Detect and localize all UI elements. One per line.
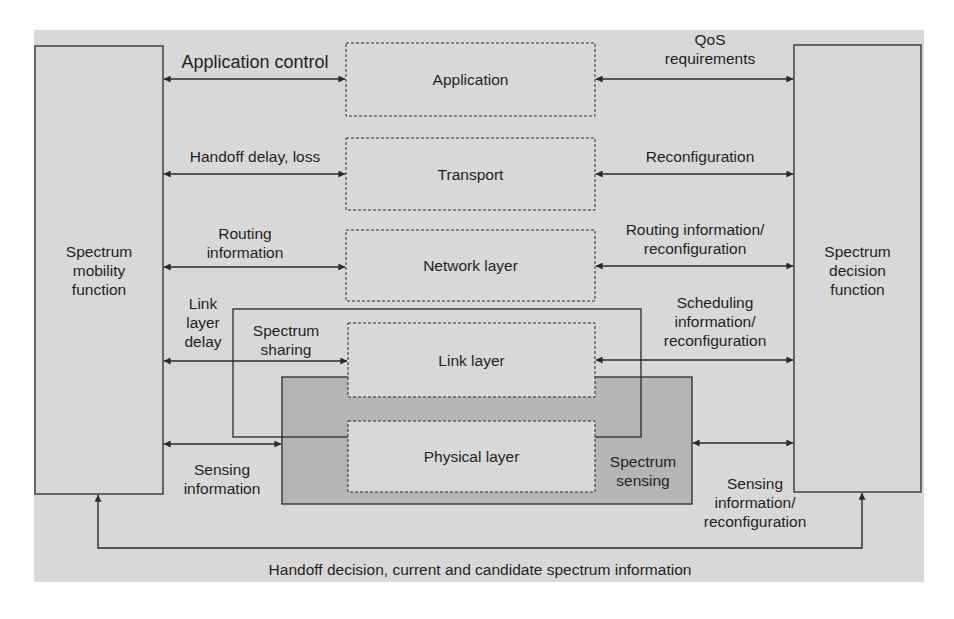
link-layer-label: Link layer <box>348 323 595 397</box>
sensing-reconfiguration-label: Sensing information/ reconfiguration <box>680 474 830 531</box>
routing-reconfiguration-label: Routing information/ reconfiguration <box>605 220 785 258</box>
transport-layer-label: Transport <box>346 138 595 210</box>
qos-requirements-label: QoS requirements <box>630 30 790 68</box>
spectrum-decision-text: Spectrum decision function <box>824 242 890 299</box>
network-layer-text: Network layer <box>423 256 518 275</box>
physical-layer-label: Physical layer <box>348 421 595 492</box>
spectrum-mobility-text: Spectrum mobility function <box>66 242 132 299</box>
link-layer-delay-label: Link layer delay <box>178 294 228 351</box>
spectrum-sensing-label: Spectrum sensing <box>598 452 688 490</box>
sensing-information-label: Sensing information <box>170 460 274 498</box>
link-layer-text: Link layer <box>438 351 504 370</box>
handoff-decision-label: Handoff decision, current and candidate … <box>180 560 780 579</box>
application-control-label: Application control <box>166 52 344 72</box>
application-layer-label: Application <box>346 43 595 116</box>
routing-information-label: Routing information <box>186 224 304 262</box>
spectrum-sharing-label: Spectrum sharing <box>246 321 326 359</box>
spectrum-mobility-label: Spectrum mobility function <box>35 240 163 300</box>
spectrum-decision-label: Spectrum decision function <box>794 240 921 300</box>
reconfiguration-label: Reconfiguration <box>610 147 790 166</box>
handoff-delay-label: Handoff delay, loss <box>166 147 344 166</box>
transport-layer-text: Transport <box>438 165 504 184</box>
application-layer-text: Application <box>433 70 509 89</box>
network-layer-label: Network layer <box>346 230 595 301</box>
scheduling-reconfiguration-label: Scheduling information/ reconfiguration <box>640 293 790 350</box>
physical-layer-text: Physical layer <box>424 447 520 466</box>
